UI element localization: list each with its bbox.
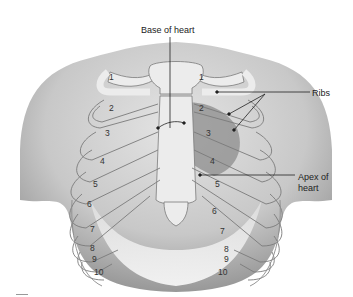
rib-number-right-8: 8 xyxy=(224,244,229,254)
rib-number-left-7: 7 xyxy=(90,224,95,234)
label-apex-line1: Apex of xyxy=(298,172,329,182)
rib-number-right-9: 9 xyxy=(224,254,229,264)
thorax-diagram: 1 2 3 4 5 6 7 8 9 10 1 2 3 4 5 6 7 8 9 1… xyxy=(0,0,353,297)
rib-number-right-10: 10 xyxy=(218,267,228,277)
rib-number-left-6: 6 xyxy=(87,199,92,209)
label-apex-line2: heart xyxy=(298,183,319,193)
rib-number-right-2: 2 xyxy=(199,103,204,113)
rib-number-left-4: 4 xyxy=(100,156,105,166)
rib-number-left-2: 2 xyxy=(109,103,114,113)
rib-number-right-5: 5 xyxy=(215,179,220,189)
footer-mark xyxy=(16,294,28,295)
label-base-of-heart: Base of heart xyxy=(141,25,195,35)
rib-number-right-3: 3 xyxy=(206,128,211,138)
rib-number-right-6: 6 xyxy=(212,206,217,216)
rib-number-left-3: 3 xyxy=(105,128,110,138)
rib-number-left-1: 1 xyxy=(109,72,114,82)
rib-number-right-7: 7 xyxy=(220,226,225,236)
rib-number-left-10: 10 xyxy=(94,267,104,277)
rib-number-right-4: 4 xyxy=(210,156,215,166)
rib-number-left-5: 5 xyxy=(93,179,98,189)
label-ribs: Ribs xyxy=(312,88,330,98)
rib-number-right-1: 1 xyxy=(199,72,204,82)
rib-number-left-9: 9 xyxy=(92,254,97,264)
rib-number-left-8: 8 xyxy=(90,243,95,253)
